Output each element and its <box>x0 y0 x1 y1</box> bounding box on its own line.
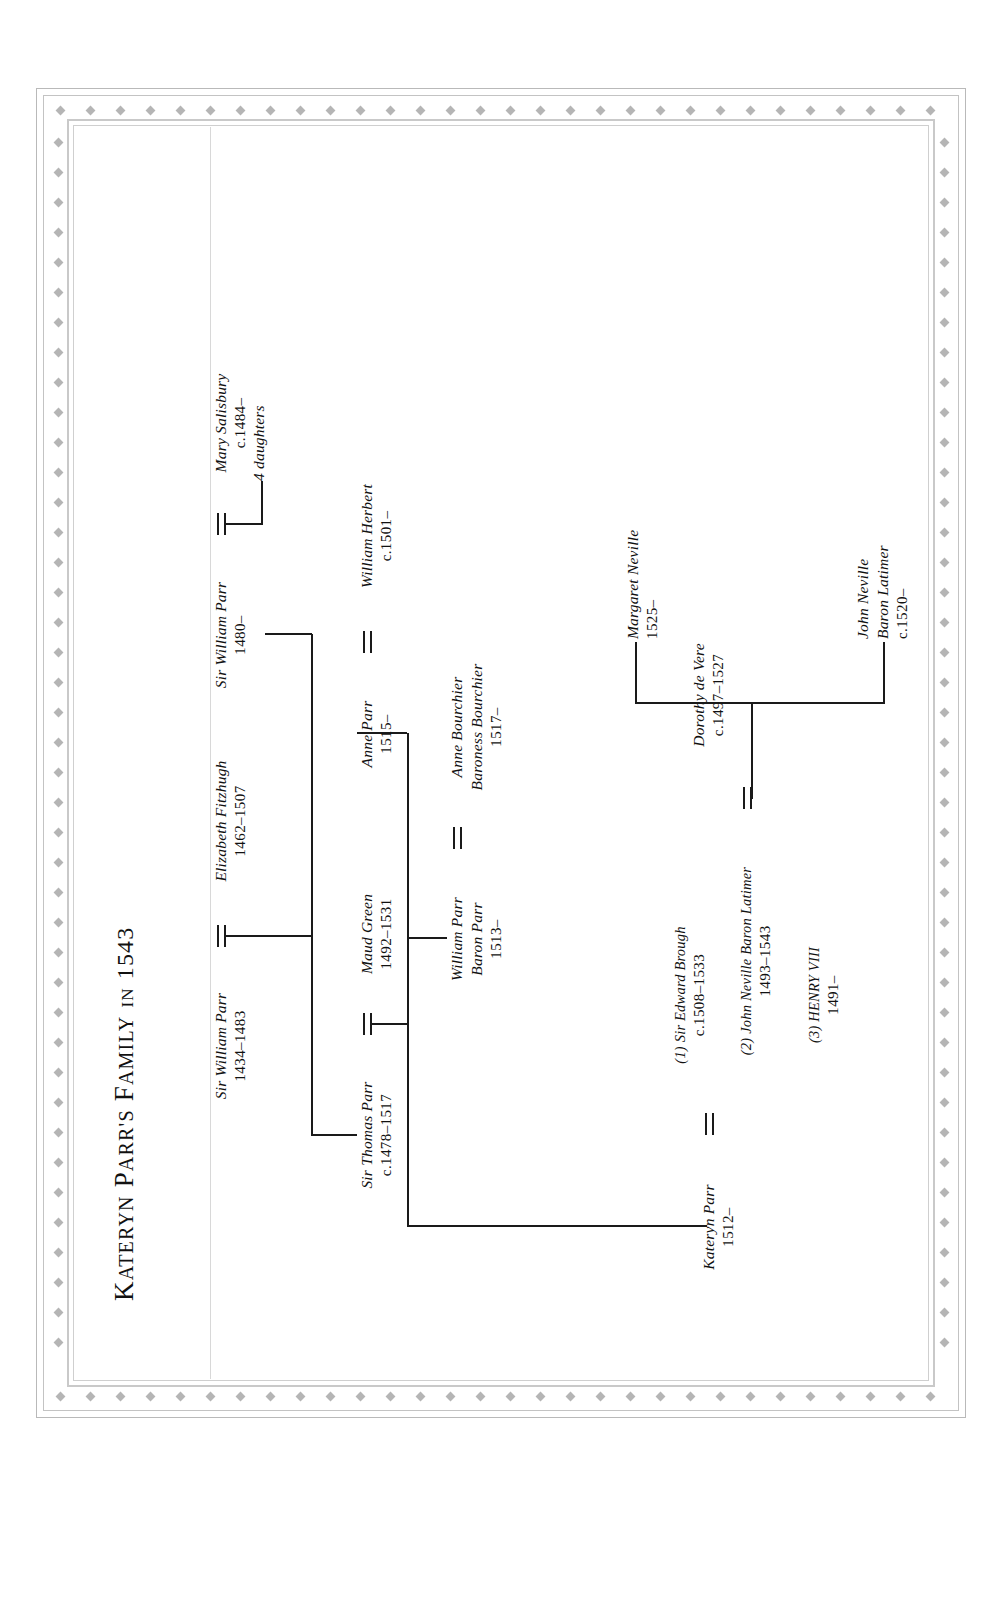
frame-dot-icon <box>53 1067 63 1077</box>
frame-dot-icon <box>939 1337 949 1347</box>
frame-dot-icon <box>939 377 949 387</box>
connector-gen1-sibling-bar <box>311 634 313 1136</box>
frame-dot-icon <box>53 1277 63 1287</box>
frame-dot-icon <box>939 1277 949 1287</box>
frame-dot-icon <box>939 887 949 897</box>
frame-dot-icon <box>925 1391 935 1401</box>
frame-dot-icon <box>939 737 949 747</box>
frame-dot-icon <box>505 1391 515 1401</box>
node-name: John Neville <box>853 459 873 639</box>
node-dates: c.1497–1527 <box>709 605 728 785</box>
node-dates: 1434–1483 <box>231 951 250 1141</box>
frame-dot-icon <box>325 1391 335 1401</box>
page-title: KATERYN PARR'S FAMILY IN 1543 <box>109 926 140 1301</box>
frame-dot-icon <box>505 105 515 115</box>
frame-dot-icon <box>115 1391 125 1401</box>
node-name: Anne Bourchier <box>447 627 467 827</box>
frame-dot-icon <box>115 105 125 115</box>
node-name: Maud Green <box>357 859 377 1009</box>
node-husband-3: (3) HENRY VIII 1491– <box>805 879 843 1111</box>
marriage-bar-gen2-parr <box>363 1013 372 1035</box>
frame-dot-icon <box>939 167 949 177</box>
frame-dot-icon <box>939 1217 949 1227</box>
frame-dot-icon <box>939 977 949 987</box>
frame-dot-icon <box>865 1391 875 1401</box>
frame-dot-icon <box>939 527 949 537</box>
node-margaret-neville: Margaret Neville 1525– <box>623 459 662 639</box>
frame-dot-icon <box>53 1187 63 1197</box>
frame-dot-icon <box>475 105 485 115</box>
frame-dot-icon <box>939 587 949 597</box>
node-title: Baroness Bourchier <box>467 627 487 827</box>
marriage-bar-kateryn <box>705 1113 714 1135</box>
frame-dot-icon <box>939 1187 949 1197</box>
frame-dot-icon <box>939 647 949 657</box>
node-dates: c.1508–1533 <box>690 879 709 1111</box>
node-william-parr-1513: William Parr Baron Parr 1513– <box>447 851 506 1027</box>
node-name: William Herbert <box>357 443 377 629</box>
frame-dot-icon <box>205 105 215 115</box>
frame-dot-icon <box>939 497 949 507</box>
frame-dot-icon <box>145 105 155 115</box>
frame-dot-icon <box>265 105 275 115</box>
frame-dot-icon <box>445 1391 455 1401</box>
frame-dot-icon <box>53 857 63 867</box>
connector-latimer-children-bar <box>635 702 885 704</box>
frame-dot-icon <box>235 105 245 115</box>
frame-dot-icon <box>939 467 949 477</box>
frame-dot-icon <box>415 1391 425 1401</box>
node-name: Kateryn Parr <box>699 1139 719 1315</box>
node-dates: c.1484– <box>231 335 250 511</box>
frame-dot-icon <box>939 617 949 627</box>
frame-dot-icon <box>53 767 63 777</box>
frame-dot-icon <box>939 257 949 267</box>
frame-dot-icon <box>939 1067 949 1077</box>
frame-dot-icon <box>939 317 949 327</box>
frame-dot-icon <box>895 1391 905 1401</box>
frame-dot-icon <box>53 377 63 387</box>
page-root: KATERYN PARR'S FAMILY IN 1543 Sir Willia… <box>0 0 1004 1607</box>
frame-dot-icon <box>939 917 949 927</box>
frame-dot-icon <box>925 105 935 115</box>
node-dates: 1493–1543 <box>756 811 775 1111</box>
frame-dot-icon <box>53 227 63 237</box>
frame-dot-icon <box>625 105 635 115</box>
frame-dot-icon <box>175 105 185 115</box>
node-sir-william-parr-1480: Sir William Parr 1480– <box>211 539 250 731</box>
frame-dot-icon <box>53 977 63 987</box>
frame-dot-icon <box>53 1157 63 1167</box>
frame-dot-icon <box>53 1247 63 1257</box>
node-husband-1: (1) Sir Edward Brough c.1508–1533 <box>671 879 709 1111</box>
frame-dot-icon <box>865 105 875 115</box>
frame-dot-icon <box>385 105 395 115</box>
frame-dot-icon <box>939 767 949 777</box>
frame-dot-icon <box>939 407 949 417</box>
frame-dot-icon <box>475 1391 485 1401</box>
connector-william-mary-drop <box>226 523 262 525</box>
node-dates: 1480– <box>231 539 250 731</box>
frame-dot-icon <box>265 1391 275 1401</box>
frame-dot-icon <box>55 1391 65 1401</box>
frame-dot-icon <box>445 105 455 115</box>
marriage-bar-william-anne <box>453 827 462 849</box>
frame-dot-icon <box>53 1307 63 1317</box>
frame-dot-icon <box>53 887 63 897</box>
frame-dot-icon <box>235 1391 245 1401</box>
frame-dot-icon <box>53 557 63 567</box>
connector-thomas-children-bar <box>407 733 409 1227</box>
node-kateryn-parr: Kateryn Parr 1512– <box>699 1139 738 1315</box>
marriage-bar-william-mary <box>217 513 226 535</box>
frame-dot-icon <box>939 1157 949 1167</box>
node-dates: 1462–1507 <box>231 721 250 921</box>
connector-latimer-dorothy-drop <box>751 703 753 799</box>
node-name: (1) Sir Edward Brough <box>671 879 690 1111</box>
frame-dot-icon <box>53 1097 63 1107</box>
frame-dot-icon <box>355 1391 365 1401</box>
frame-dot-icon <box>625 1391 635 1401</box>
node-sir-thomas-parr: Sir Thomas Parr c.1478–1517 <box>357 1039 396 1231</box>
connector-to-kateryn <box>407 1225 707 1227</box>
node-dates: c.1501– <box>377 443 396 629</box>
marriage-bar-anne-herbert <box>363 631 372 653</box>
frame-dot-icon <box>295 105 305 115</box>
frame-dot-icon <box>685 1391 695 1401</box>
